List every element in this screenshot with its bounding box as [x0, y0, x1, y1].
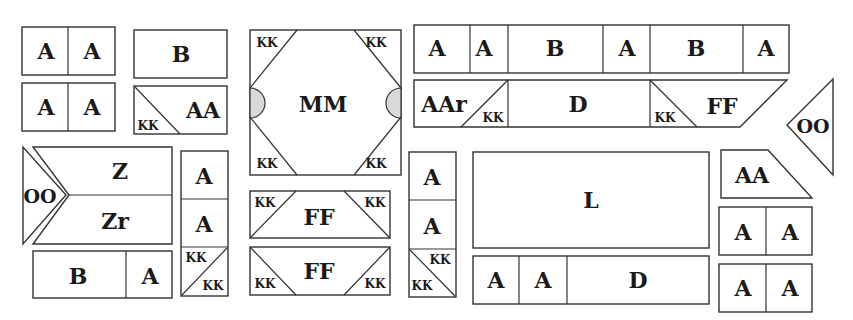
label-a: A	[36, 38, 55, 64]
label-a: A	[486, 267, 505, 293]
label-a: A	[36, 94, 55, 120]
label-kk: KK	[255, 277, 276, 291]
label-oo: OO	[796, 115, 829, 137]
label-a: A	[756, 35, 775, 61]
label-a: A	[474, 35, 493, 61]
label-kk: KK	[366, 36, 387, 50]
a-a-d-bar-outline	[473, 256, 709, 304]
label-kk: KK	[255, 196, 276, 210]
label-z: Z	[112, 158, 128, 184]
label-kk: KK	[186, 251, 207, 265]
label-b: B	[687, 35, 706, 61]
label-b: B	[69, 263, 88, 289]
aa-pair-top-left	[22, 27, 115, 75]
a-a-d-bar	[473, 256, 709, 304]
label-a: A	[427, 35, 446, 61]
label-b: B	[172, 41, 191, 67]
label-a: A	[780, 219, 799, 245]
label-kk: KK	[366, 157, 387, 171]
label-a: A	[194, 163, 213, 189]
label-aar: AAr	[420, 91, 467, 117]
label-l: L	[583, 187, 598, 213]
label-kk: KK	[257, 157, 278, 171]
label-a: A	[617, 35, 636, 61]
label-a: A	[733, 275, 752, 301]
label-ff: FF	[303, 258, 335, 284]
label-aa: AA	[734, 162, 770, 188]
label-a: A	[194, 211, 213, 237]
label-kk: KK	[365, 277, 386, 291]
label-a: A	[82, 38, 101, 64]
label-a: A	[82, 94, 101, 120]
label-a: A	[140, 263, 159, 289]
floor-plan-diagram: AAAABAAKKOOZZrBAAAKKKKMMKKKKKKKKFFKKKKFF…	[0, 0, 853, 320]
label-kk: KK	[257, 36, 278, 50]
label-a: A	[733, 219, 752, 245]
label-mm: MM	[299, 91, 348, 117]
label-kk: KK	[203, 279, 224, 293]
label-kk: KK	[138, 119, 159, 133]
label-ff: FF	[706, 93, 738, 119]
label-kk: KK	[483, 111, 504, 125]
label-zr: Zr	[101, 208, 129, 234]
label-kk: KK	[412, 279, 433, 293]
label-kk: KK	[365, 196, 386, 210]
label-aa: AA	[185, 97, 221, 123]
label-kk: KK	[430, 253, 451, 267]
label-b: B	[546, 35, 565, 61]
label-a: A	[533, 267, 552, 293]
label-oo: OO	[23, 185, 56, 207]
label-a: A	[780, 275, 799, 301]
label-a: A	[422, 213, 441, 239]
aa-pair-second-left	[22, 83, 115, 131]
label-d: D	[628, 267, 647, 293]
label-a: A	[422, 164, 441, 190]
label-ff: FF	[303, 204, 335, 230]
top-row-bar	[414, 25, 789, 73]
label-kk: KK	[655, 111, 676, 125]
label-d: D	[568, 91, 587, 117]
